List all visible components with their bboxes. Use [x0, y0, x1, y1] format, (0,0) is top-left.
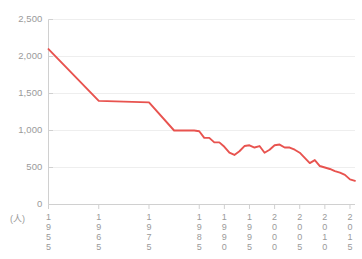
x-tick-label-digit: 9	[93, 222, 105, 232]
x-tick-label-digit: 6	[93, 232, 105, 242]
x-tick-label-digit: 2	[294, 212, 306, 222]
x-tick-label-digit: 8	[193, 232, 205, 242]
x-tick-label: 1955	[43, 212, 55, 253]
x-tick-label-digit: 0	[269, 222, 281, 232]
x-tick-label-digit: 9	[243, 222, 255, 232]
x-tick-label-digit: 1	[218, 212, 230, 222]
y-tick-label: 0	[37, 198, 42, 209]
x-tick-label-digit: 1	[143, 212, 155, 222]
x-tick-label-digit: 5	[93, 242, 105, 252]
x-tick-label-digit: 0	[344, 222, 356, 232]
y-tick-label: 1,500	[18, 87, 42, 98]
x-tick-label: 1990	[218, 212, 230, 253]
x-tick-label-digit: 1	[344, 232, 356, 242]
x-tick-label: 2005	[294, 212, 306, 253]
x-tick-label-digit: 5	[193, 242, 205, 252]
x-tick-label-digit: 9	[218, 222, 230, 232]
axis-ticks	[49, 20, 350, 210]
x-tick-label-digit: 0	[294, 232, 306, 242]
gridlines	[49, 20, 356, 168]
y-axis-unit-label: (人)	[10, 212, 25, 225]
x-tick-label-digit: 2	[269, 212, 281, 222]
y-tick-label: 1,000	[18, 124, 42, 135]
x-tick-label-digit: 2	[344, 212, 356, 222]
x-tick-label-digit: 7	[143, 232, 155, 242]
x-tick-label-digit: 1	[243, 212, 255, 222]
x-tick-label-digit: 0	[218, 242, 230, 252]
series-line	[49, 49, 356, 181]
x-tick-label-digit: 9	[143, 222, 155, 232]
x-tick-label: 2015	[344, 212, 356, 253]
x-tick-label-digit: 0	[294, 222, 306, 232]
x-tick-label-digit: 9	[243, 232, 255, 242]
x-tick-label-digit: 0	[319, 242, 331, 252]
x-tick-label-digit: 9	[43, 222, 55, 232]
x-tick-label-digit: 5	[344, 242, 356, 252]
x-tick-label-digit: 9	[218, 232, 230, 242]
x-tick-label-digit: 5	[43, 242, 55, 252]
x-tick-label-digit: 9	[193, 222, 205, 232]
x-tick-label: 1995	[243, 212, 255, 253]
x-tick-label-digit: 1	[43, 212, 55, 222]
x-tick-label: 2000	[269, 212, 281, 253]
x-tick-label-digit: 5	[43, 232, 55, 242]
x-tick-label-digit: 2	[319, 212, 331, 222]
x-tick-label-digit: 0	[269, 242, 281, 252]
x-tick-label: 2010	[319, 212, 331, 253]
x-tick-label-digit: 0	[319, 222, 331, 232]
axis-line	[49, 20, 356, 205]
y-tick-label: 2,000	[18, 50, 42, 61]
x-tick-label-digit: 1	[193, 212, 205, 222]
x-tick-label: 1985	[193, 212, 205, 253]
x-tick-label-digit: 5	[143, 242, 155, 252]
x-tick-label-digit: 1	[93, 212, 105, 222]
line-chart: 05001,0001,5002,0002,500 195519651975198…	[0, 0, 362, 259]
x-tick-label: 1975	[143, 212, 155, 253]
x-tick-label: 1965	[93, 212, 105, 253]
x-tick-label-digit: 1	[319, 232, 331, 242]
x-tick-label-digit: 5	[294, 242, 306, 252]
y-tick-label: 2,500	[18, 13, 42, 24]
axis-lines	[49, 20, 356, 205]
x-tick-label-digit: 0	[269, 232, 281, 242]
y-tick-label: 500	[26, 161, 42, 172]
x-tick-label-digit: 5	[243, 242, 255, 252]
